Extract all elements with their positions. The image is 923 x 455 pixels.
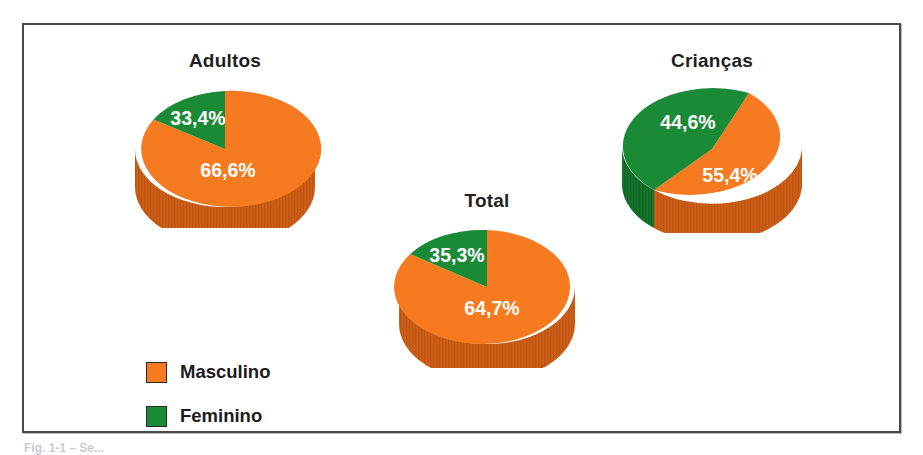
figure-frame: Adultos (22, 23, 901, 433)
pie-body-adultos: 33,4% 66,6% (120, 83, 330, 232)
legend-swatch-masculino (146, 362, 167, 383)
pie-title-total: Total (382, 190, 592, 212)
legend-swatch-feminino (146, 406, 167, 427)
pie-title-criancas: Crianças (606, 50, 818, 72)
legend-item-feminino: Feminino (146, 399, 270, 433)
pie-chart-adultos: Adultos (120, 45, 330, 225)
legend-item-masculino: Masculino (146, 355, 270, 389)
pie-svg-adultos: 33,4% 66,6% (120, 83, 330, 228)
pie-label-masculino-adultos: 66,6% (200, 159, 255, 181)
pie-body-criancas: 44,6% 55,4% (606, 83, 818, 237)
pie-label-feminino-criancas: 44,6% (660, 111, 715, 133)
pie-body-total: 35,3% 64,7% (382, 223, 592, 372)
legend-label-masculino: Masculino (180, 361, 270, 383)
figure-caption-partial: Fig. 1-1 – Se... (24, 441, 104, 455)
pie-svg-total: 35,3% 64,7% (382, 223, 592, 368)
legend-label-feminino: Feminino (180, 405, 262, 427)
pie-label-masculino-criancas: 55,4% (702, 164, 757, 186)
pie-title-adultos: Adultos (120, 50, 330, 72)
pie-svg-criancas: 44,6% 55,4% (606, 83, 818, 233)
pie-label-masculino-total: 64,7% (464, 297, 519, 319)
pie-chart-total: Total 35,3% 64,7% (382, 185, 592, 365)
pie-chart-criancas: Crianças (606, 45, 818, 225)
pie-label-feminino-adultos: 33,4% (170, 107, 225, 129)
figure-screenshot: Adultos (0, 0, 923, 455)
pie-label-feminino-total: 35,3% (429, 244, 484, 266)
chart-legend: Masculino Feminino (146, 355, 270, 443)
